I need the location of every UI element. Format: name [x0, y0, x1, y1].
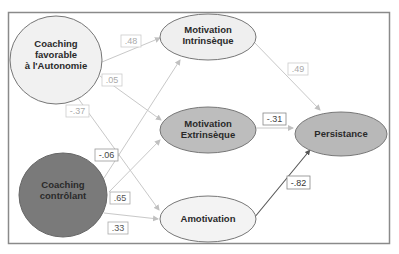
coef-controlant-intrinseque: -.06 — [95, 149, 118, 161]
node-persistance: Persistance — [295, 112, 387, 156]
node-label-line1: Motivation — [184, 118, 232, 129]
coef-value: -.06 — [99, 150, 115, 160]
node-label-line1: Coaching — [41, 179, 84, 190]
node-label-line1: Motivation — [184, 24, 232, 35]
node-label-line1: Coaching — [34, 38, 77, 49]
coef-value: -.82 — [291, 178, 307, 188]
coef-extrinseque-persistance: -.31 — [263, 113, 286, 125]
path-diagram: Coaching favorable à l'Autonomie Coachin… — [0, 0, 399, 254]
node-amotivation: Amotivation — [160, 196, 256, 242]
coef-autonomie-extrinseque: .05 — [102, 74, 122, 86]
node-coaching-autonomie: Coaching favorable à l'Autonomie — [10, 16, 102, 104]
coef-value: .05 — [106, 75, 119, 85]
coef-value: .65 — [114, 193, 127, 203]
node-label-line2: Extrinsèque — [181, 129, 235, 140]
node-label-line1: Persistance — [314, 128, 367, 139]
node-coaching-controlant: Coaching contrôlant — [19, 153, 107, 237]
coef-value: -.31 — [267, 114, 283, 124]
coef-controlant-amotivation: .33 — [108, 222, 128, 234]
coef-value: -.37 — [70, 106, 86, 116]
node-label-line2: favorable — [35, 49, 77, 60]
node-label-line3: à l'Autonomie — [25, 60, 87, 71]
coef-autonomie-amotivation: -.37 — [66, 105, 89, 117]
coef-value: .48 — [125, 36, 138, 46]
node-label-line1: Amotivation — [181, 213, 236, 224]
coef-value: .33 — [112, 223, 125, 233]
coef-value: .49 — [292, 64, 305, 74]
coef-autonomie-intrinseque: .48 — [121, 35, 141, 47]
node-label-line2: Intrinsèque — [182, 35, 233, 46]
coef-controlant-extrinseque: .65 — [110, 192, 130, 204]
coef-intrinseque-persistance: .49 — [288, 63, 308, 75]
node-motivation-intrinseque: Motivation Intrinsèque — [160, 14, 256, 60]
node-label-line2: contrôlant — [40, 190, 87, 201]
node-motivation-extrinseque: Motivation Extrinsèque — [160, 107, 256, 153]
coef-amotivation-persistance: -.82 — [287, 176, 310, 189]
